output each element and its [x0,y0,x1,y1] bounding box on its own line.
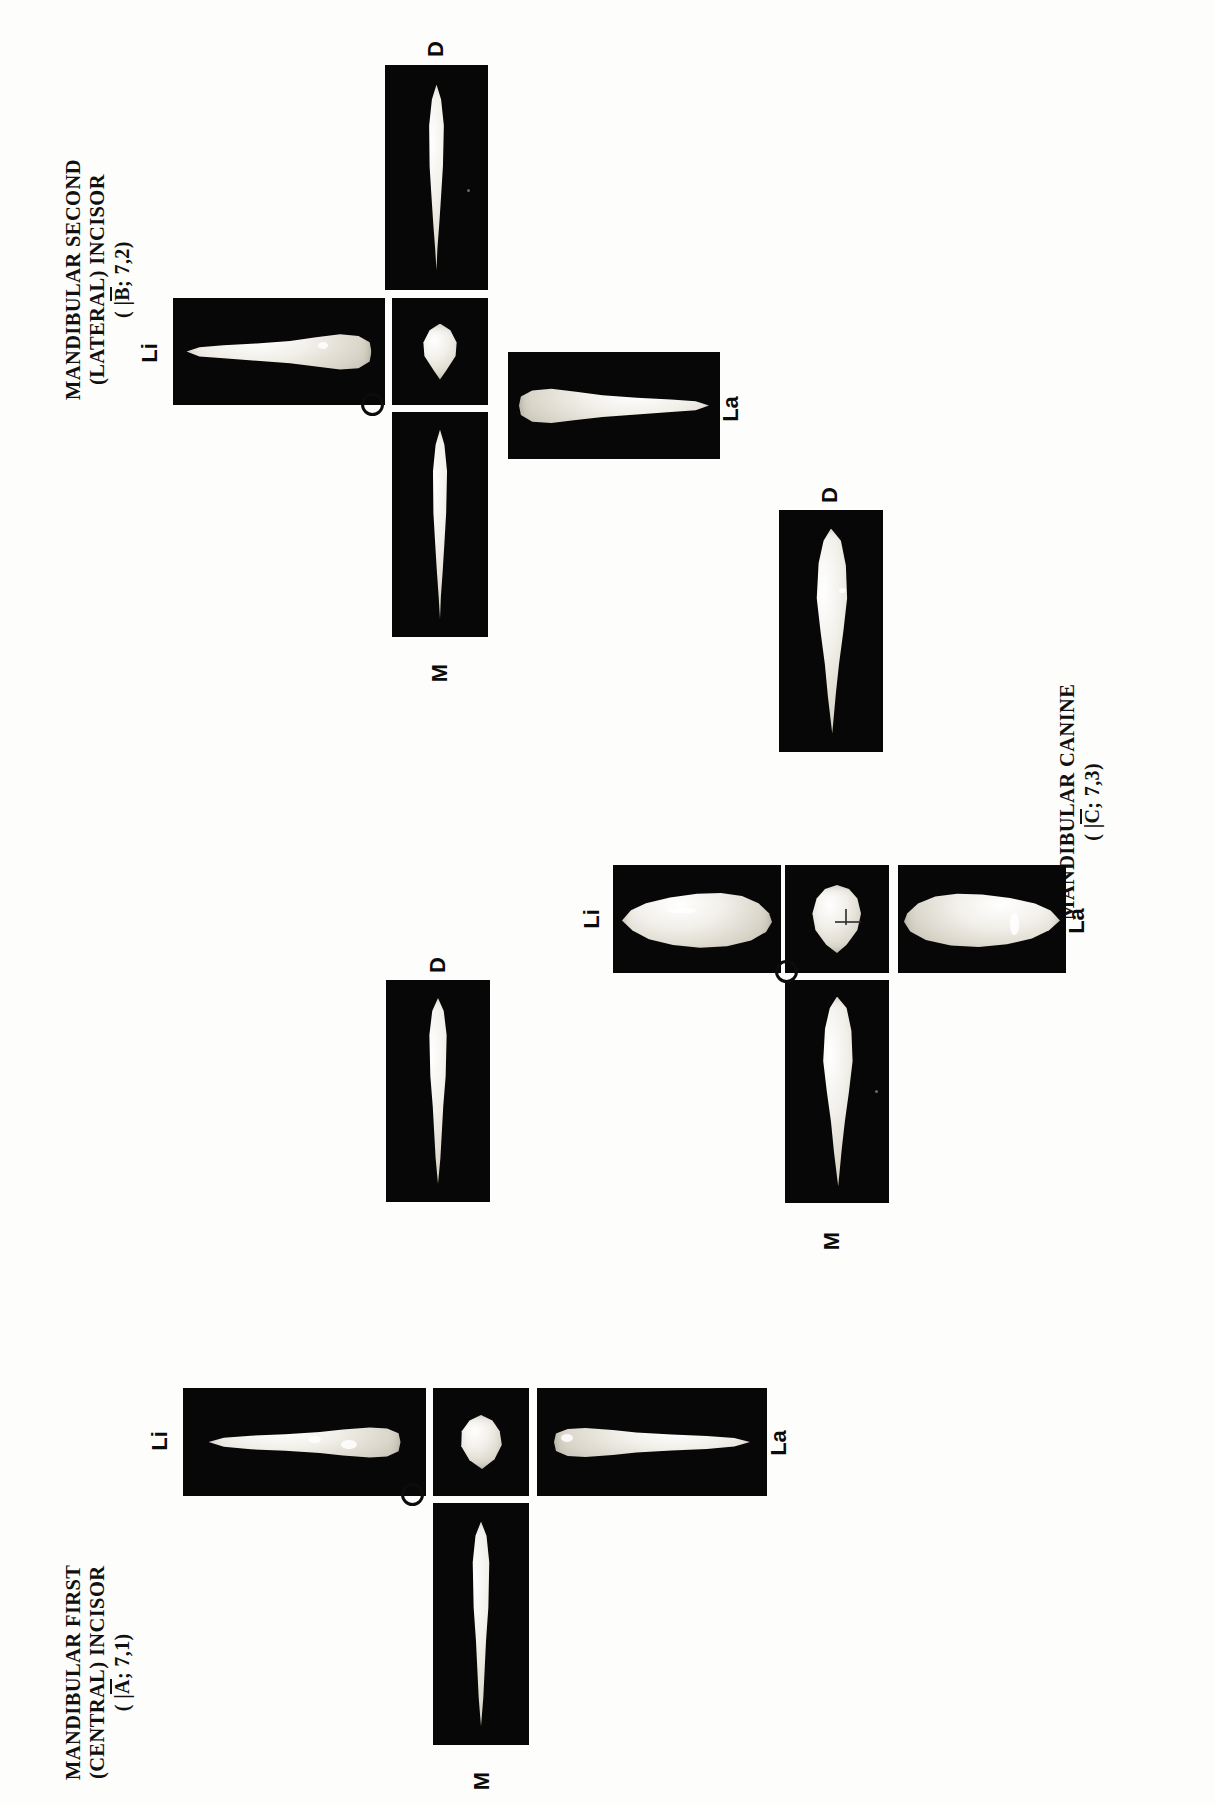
incisal-marker-ring-0 [361,393,384,416]
specimen-canine-mesial [807,997,867,1187]
designation-suffix: ; 7,2) [111,241,133,287]
caption-designation: ( |A; 7,1) [110,1565,134,1780]
panel-central-incisor-labial [537,1388,767,1496]
caption-designation: ( |C; 7,3) [1080,684,1104,920]
incisal-marker-ring-2 [401,1483,424,1506]
designation-letter: A [110,1679,132,1694]
caption-line-1: MANDIBULAR SECOND [62,159,86,400]
panel-central-incisor-mesial [433,1503,529,1745]
view-label-mesial-canine: M [819,1227,845,1255]
designation-suffix: ; 7,1) [111,1633,133,1679]
designation-prefix: ( | [111,301,133,318]
view-label-labial-canine: La [1064,904,1090,938]
view-label-mesial-lateral-incisor: M [427,659,453,687]
specimen-canine-distal [800,529,862,734]
panel-lateral-incisor-mesial [392,412,488,637]
panel-lateral-incisor-lingual [173,298,385,405]
panel-central-incisor-lingual [183,1388,426,1496]
specimen-lateral-incisor-incisal [414,324,466,380]
view-label-labial-lateral-incisor: La [718,392,744,426]
designation-suffix: ; 7,3) [1081,763,1103,809]
panel-central-incisor-distal [386,980,490,1202]
caption-line-1: MANDIBULAR FIRST [62,1565,86,1780]
view-label-distal-central-incisor: D [425,953,451,977]
panel-lateral-incisor-incisal [392,298,488,405]
panel-lateral-incisor-labial [508,352,720,459]
incisal-marker-ring-1 [775,960,798,983]
view-label-lingual-central-incisor: Li [147,1427,173,1455]
panel-canine-distal [779,510,883,752]
specimen-canine-incisal [807,885,867,953]
specimen-lateral-incisor-mesial [418,430,462,620]
specimen-central-incisor-distal [414,998,462,1184]
designation-prefix: ( | [1081,824,1103,841]
view-label-labial-central-incisor: La [766,1426,792,1460]
designation-letter: C [1080,809,1102,824]
caption-line-2: (LATERAL) INCISOR [86,159,110,400]
panel-lateral-incisor-distal [385,65,488,290]
designation-prefix: ( | [111,1694,133,1711]
caption-line-2: (CENTRAL) INCISOR [86,1565,110,1780]
view-label-distal-canine: D [817,483,843,507]
panel-canine-lingual [613,865,781,973]
view-label-mesial-central-incisor: M [469,1767,495,1795]
panel-canine-mesial [785,980,889,1203]
caption-designation: ( |B; 7,2) [110,159,134,400]
specimen-lateral-incisor-labial [519,376,709,436]
panel-central-incisor-incisal [433,1388,529,1496]
specimen-canine-labial [904,884,1060,954]
tooth-photo-plate: MANDIBULAR SECOND (LATERAL) INCISOR ( |B… [0,0,1215,1805]
specimen-central-incisor-lingual [209,1416,401,1468]
specimen-lateral-incisor-distal [414,85,460,271]
caption-mandibular-second-lateral-incisor: MANDIBULAR SECOND (LATERAL) INCISOR ( |B… [62,159,134,400]
view-label-lingual-canine: Li [579,905,605,933]
specimen-central-incisor-mesial [458,1522,504,1727]
specimen-central-incisor-labial [554,1417,750,1467]
panel-canine-incisal [785,865,889,973]
designation-letter: B [110,287,132,301]
specimen-lateral-incisor-lingual [187,321,372,383]
specimen-canine-lingual [622,883,772,955]
view-label-lingual-lateral-incisor: Li [137,339,163,367]
view-label-distal-lateral-incisor: D [423,37,449,61]
caption-mandibular-first-central-incisor: MANDIBULAR FIRST (CENTRAL) INCISOR ( |A;… [62,1565,134,1780]
specimen-central-incisor-incisal [455,1415,507,1469]
panel-canine-labial [898,865,1066,973]
